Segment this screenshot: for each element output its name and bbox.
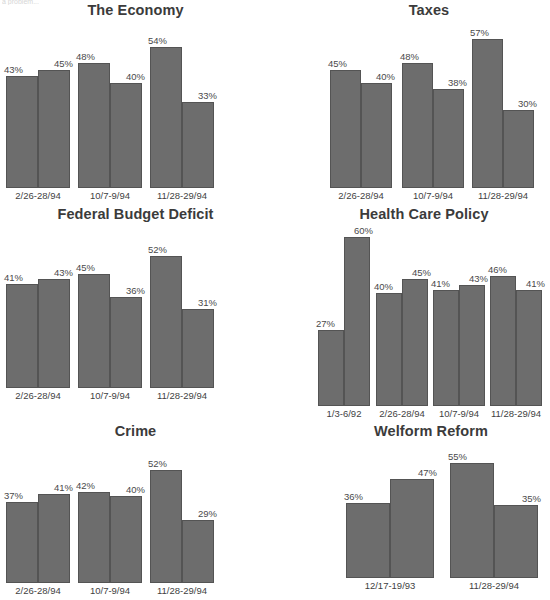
bar: [150, 47, 182, 188]
bar-value-label: 41%: [4, 273, 23, 283]
bar: [490, 276, 516, 406]
bar: [361, 83, 392, 188]
bar-value-label: 45%: [328, 59, 347, 69]
bar: [472, 39, 503, 188]
bar: [402, 63, 433, 188]
bar-value-label: 43%: [54, 268, 73, 278]
bar: [318, 330, 344, 406]
bar-value-label: 30%: [518, 99, 537, 109]
bar: [78, 63, 110, 188]
bar-group: 41%43%: [433, 231, 485, 406]
bar-group: 54%33%: [150, 26, 214, 188]
bar-value-label: 52%: [148, 245, 167, 255]
bar: [182, 309, 214, 388]
bar: [503, 110, 534, 188]
chart-panel: Health Care Policy1/3-6/922/26-28/9410/7…: [306, 206, 542, 422]
bar-value-label: 31%: [198, 298, 217, 308]
bar: [110, 297, 142, 388]
chart-panel: Taxes2/26-28/9410/7-9/9411/28-29/9445%40…: [316, 2, 542, 204]
bar-value-label: 40%: [126, 72, 145, 82]
bar-group: 48%40%: [78, 26, 142, 188]
bar: [450, 463, 494, 578]
chart-title: Crime: [0, 423, 271, 439]
bar-group: 42%40%: [78, 448, 142, 583]
bar-value-label: 41%: [526, 279, 545, 289]
bar-group: 45%36%: [78, 231, 142, 388]
bar: [433, 89, 464, 188]
bar: [78, 274, 110, 388]
bar-value-label: 35%: [522, 494, 541, 504]
bar-group: 48%38%: [402, 26, 464, 188]
bar: [38, 494, 70, 583]
x-axis-label: 12/17-19/93: [332, 580, 448, 591]
bar-group: 45%40%: [330, 26, 392, 188]
plot-area: 45%40%48%38%57%30%: [316, 26, 542, 188]
bar-value-label: 46%: [488, 265, 507, 275]
bar: [150, 470, 182, 583]
bar-value-label: 47%: [418, 468, 437, 478]
bar-value-label: 33%: [198, 91, 217, 101]
bar: [344, 237, 370, 406]
bar-value-label: 36%: [126, 286, 145, 296]
x-axis-label: 11/28-29/94: [458, 190, 548, 201]
x-axis-label: 11/28-29/94: [136, 585, 228, 596]
bar-value-label: 40%: [374, 282, 393, 292]
bar-value-label: 48%: [400, 52, 419, 62]
bar-value-label: 54%: [148, 36, 167, 46]
bar: [459, 285, 485, 406]
x-axis-label: 11/28-29/94: [436, 580, 550, 591]
plot-area: 43%45%48%40%54%33%: [0, 26, 271, 188]
bar-value-label: 36%: [344, 492, 363, 502]
bar: [182, 102, 214, 188]
bar-value-label: 41%: [54, 483, 73, 493]
x-axis-label: 11/28-29/94: [476, 408, 550, 419]
chart-title: The Economy: [0, 2, 271, 18]
bar-value-label: 41%: [431, 279, 450, 289]
bar: [110, 496, 142, 583]
bar-value-label: 48%: [76, 52, 95, 62]
chart-panel: Crime2/26-28/9410/7-9/9411/28-29/9437%41…: [0, 423, 271, 599]
bar: [6, 502, 38, 583]
chart-title: Welform Reform: [320, 423, 542, 439]
bar-group: 40%45%: [376, 231, 428, 406]
bar-group: 41%43%: [6, 231, 70, 388]
bar-value-label: 42%: [76, 481, 95, 491]
bar: [346, 503, 390, 578]
chart-title: Health Care Policy: [306, 206, 542, 222]
x-axis-label: 11/28-29/94: [136, 190, 228, 201]
bar-value-label: 37%: [4, 491, 23, 501]
bar-value-label: 57%: [470, 28, 489, 38]
bar-value-label: 43%: [469, 274, 488, 284]
bar: [402, 279, 428, 406]
bar-value-label: 45%: [54, 59, 73, 69]
bar-value-label: 55%: [448, 452, 467, 462]
bar: [6, 76, 38, 188]
bar: [38, 279, 70, 388]
bar-value-label: 43%: [4, 65, 23, 75]
bar-value-label: 40%: [126, 485, 145, 495]
plot-area: 36%47%55%35%: [320, 448, 542, 578]
bar-value-label: 29%: [198, 509, 217, 519]
bar-value-label: 60%: [354, 226, 373, 236]
bar-group: 37%41%: [6, 448, 70, 583]
bar: [433, 290, 459, 406]
plot-area: 27%60%40%45%41%43%46%41%: [306, 231, 542, 406]
chart-panel: Welform Reform12/17-19/9311/28-29/9436%4…: [320, 423, 542, 594]
bar: [390, 479, 434, 578]
bar: [182, 520, 214, 583]
plot-area: 37%41%42%40%52%29%: [0, 448, 271, 583]
bar: [516, 290, 542, 406]
bar-group: 36%47%: [346, 448, 434, 578]
bar: [110, 83, 142, 188]
bar-group: 43%45%: [6, 26, 70, 188]
bar-group: 57%30%: [472, 26, 534, 188]
bar: [38, 70, 70, 188]
bar-group: 46%41%: [490, 231, 542, 406]
bar: [494, 505, 538, 578]
chart-panel: Federal Budget Deficit2/26-28/9410/7-9/9…: [0, 206, 271, 404]
bar: [150, 256, 182, 388]
chart-title: Federal Budget Deficit: [0, 206, 271, 222]
bar: [330, 70, 361, 188]
x-axis-label: 11/28-29/94: [136, 390, 228, 401]
